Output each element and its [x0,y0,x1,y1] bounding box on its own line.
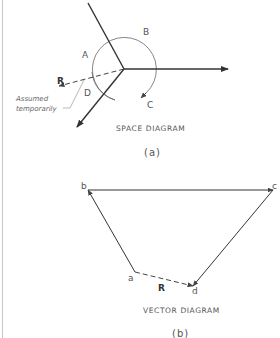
vector-diagram-sublabel: (b) [172,328,189,338]
point-label-c: c [272,181,277,191]
region-label-a: A [82,50,89,60]
resultant-label: R [57,76,64,86]
vector-cd [193,190,273,286]
arc-arrow-icon [141,93,146,98]
vector-diagram-caption: VECTOR DIAGRAM [143,306,220,315]
vector-diagram: b c a d R VECTOR DIAGRAM (b) [81,181,277,338]
region-label-c: C [147,100,153,110]
region-label-d: D [84,88,91,98]
space-diagram: A B C D R Assumed temporarily SPACE DIAG… [15,3,228,158]
space-diagram-caption: SPACE DIAGRAM [116,124,185,133]
vector-resultant-label: R [158,283,165,293]
force-line-lower-left [77,69,124,127]
note-line-2: temporarily [16,105,58,113]
point-label-b: b [81,181,87,191]
point-label-a: a [128,273,134,283]
resultant-dashed-line [59,69,124,86]
force-diagram-figure: A B C D R Assumed temporarily SPACE DIAG… [0,0,280,338]
space-diagram-sublabel: (a) [144,147,161,158]
force-line-upper [88,3,124,69]
rotation-arc-lower [92,72,115,100]
point-label-d: d [192,286,198,296]
note-line-1: Assumed [15,95,49,103]
region-label-b: B [143,27,149,37]
vector-ab [88,190,135,272]
